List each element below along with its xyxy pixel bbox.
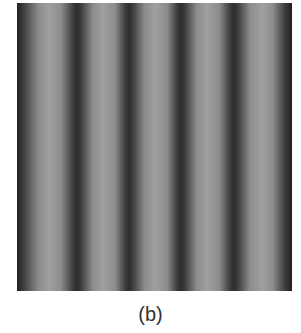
figure-caption: (b) xyxy=(0,303,301,326)
fringe-pattern-image xyxy=(17,3,292,291)
image-texture xyxy=(17,3,292,291)
